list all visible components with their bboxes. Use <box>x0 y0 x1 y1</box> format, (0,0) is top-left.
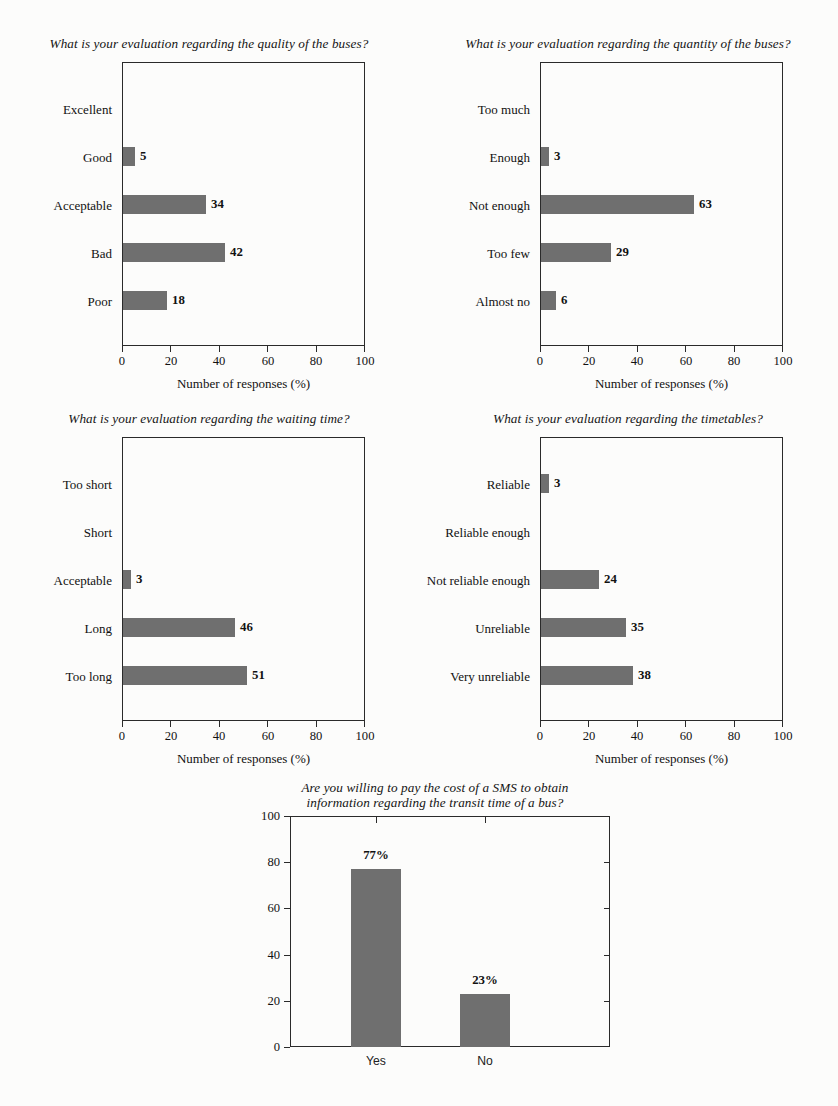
xtick-100 <box>782 721 783 727</box>
xticklabel-40: 40 <box>199 729 239 744</box>
vbar-yes <box>351 869 401 1047</box>
ycat-label-reliable: Reliable <box>418 477 530 493</box>
ytick-40 <box>284 955 290 956</box>
bar-value-too-long: 51 <box>252 668 265 683</box>
bar-value-enough: 3 <box>554 149 560 164</box>
ycat-label-acceptable: Acceptable <box>0 198 112 214</box>
ycat-label-unreliable: Unreliable <box>418 621 530 637</box>
bar-long <box>123 618 235 637</box>
ytick-0 <box>284 1047 290 1048</box>
ytick-100 <box>284 816 290 817</box>
bar-good <box>123 147 135 166</box>
ycat-label-acceptable: Acceptable <box>0 573 112 589</box>
chart-title-quality: What is your evaluation regarding the qu… <box>0 36 418 51</box>
xaxis-title-quality: Number of responses (%) <box>122 376 365 392</box>
xtick-0 <box>122 346 123 352</box>
xtick-100 <box>782 346 783 352</box>
bar-value-not-reliable-enough: 24 <box>604 572 617 587</box>
bar-acceptable <box>123 570 131 589</box>
xtick-60 <box>685 346 686 352</box>
xticklabel-60: 60 <box>248 729 288 744</box>
plot-area-sms-willingness <box>290 816 610 1047</box>
vbar-no <box>460 994 510 1047</box>
xtick-60 <box>267 346 268 352</box>
bar-unreliable <box>541 618 626 637</box>
xticklabel-40: 40 <box>617 729 657 744</box>
bar-value-almost-no: 6 <box>561 293 567 308</box>
ycat-label-good: Good <box>0 150 112 166</box>
xaxis-title-waiting-time: Number of responses (%) <box>122 751 365 767</box>
ytick-60 <box>284 908 290 909</box>
xticklabel-0: 0 <box>102 729 142 744</box>
ycat-label-short: Short <box>0 525 112 541</box>
bar-poor <box>123 291 167 310</box>
xtick-80 <box>734 346 735 352</box>
xtick-top-no <box>485 816 486 823</box>
bar-enough <box>541 147 549 166</box>
ycat-label-not-enough: Not enough <box>418 198 530 214</box>
ycat-label-bad: Bad <box>0 246 112 262</box>
xtick-0 <box>540 346 541 352</box>
xcatlabel-no: No <box>450 1054 520 1068</box>
ycat-label-poor: Poor <box>0 294 112 310</box>
chart-panel-timetables: What is your evaluation regarding the ti… <box>418 405 838 780</box>
xtick-0 <box>122 721 123 727</box>
xaxis-title-timetables: Number of responses (%) <box>540 751 783 767</box>
xticklabel-80: 80 <box>714 354 754 369</box>
bar-value-very-unreliable: 38 <box>638 668 651 683</box>
xticklabel-80: 80 <box>714 729 754 744</box>
ycat-label-long: Long <box>0 621 112 637</box>
bar-value-bad: 42 <box>230 245 243 260</box>
xticklabel-20: 20 <box>569 729 609 744</box>
xticklabel-40: 40 <box>617 354 657 369</box>
ytick-right-80 <box>604 862 610 863</box>
vbar-value-yes: 77% <box>341 848 411 863</box>
bar-value-acceptable: 34 <box>211 197 224 212</box>
xtick-40 <box>219 346 220 352</box>
yticklabel-0: 0 <box>238 1040 280 1055</box>
ycat-label-enough: Enough <box>418 150 530 166</box>
bar-value-not-enough: 63 <box>699 197 712 212</box>
bar-value-poor: 18 <box>172 293 185 308</box>
xtick-60 <box>685 721 686 727</box>
bar-too-few <box>541 243 611 262</box>
yticklabel-100: 100 <box>238 809 280 824</box>
xticklabel-0: 0 <box>520 729 560 744</box>
bar-not-reliable-enough <box>541 570 599 589</box>
yticklabel-80: 80 <box>238 855 280 870</box>
xticklabel-100: 100 <box>345 729 385 744</box>
bar-too-long <box>123 666 247 685</box>
ytick-right-20 <box>604 1001 610 1002</box>
xaxis-title-quantity: Number of responses (%) <box>540 376 783 392</box>
xticklabel-80: 80 <box>296 729 336 744</box>
bar-value-unreliable: 35 <box>631 620 644 635</box>
bar-acceptable <box>123 195 206 214</box>
xticklabel-100: 100 <box>763 354 803 369</box>
ycat-label-too-much: Too much <box>418 102 530 118</box>
bar-value-acceptable: 3 <box>136 572 142 587</box>
chart-panel-waiting-time: What is your evaluation regarding the wa… <box>0 405 418 780</box>
xtick-80 <box>316 346 317 352</box>
ycat-label-too-long: Too long <box>0 669 112 685</box>
bar-value-reliable: 3 <box>554 476 560 491</box>
chart-title-waiting-time: What is your evaluation regarding the wa… <box>0 411 418 426</box>
chart-panel-quality: What is your evaluation regarding the qu… <box>0 30 418 405</box>
xtick-100 <box>364 721 365 727</box>
xtick-40 <box>637 346 638 352</box>
xticklabel-60: 60 <box>666 354 706 369</box>
bar-value-long: 46 <box>240 620 253 635</box>
ytick-80 <box>284 862 290 863</box>
xtick-80 <box>734 721 735 727</box>
xticklabel-20: 20 <box>151 729 191 744</box>
bar-almost-no <box>541 291 556 310</box>
yticklabel-60: 60 <box>238 901 280 916</box>
xticklabel-0: 0 <box>520 354 560 369</box>
xtick-40 <box>219 721 220 727</box>
bar-reliable <box>541 474 549 493</box>
ycat-label-reliable-enough: Reliable enough <box>418 525 530 541</box>
bar-very-unreliable <box>541 666 633 685</box>
xticklabel-100: 100 <box>763 729 803 744</box>
chart-title-quantity: What is your evaluation regarding the qu… <box>418 36 838 51</box>
ytick-right-40 <box>604 955 610 956</box>
xtick-0 <box>540 721 541 727</box>
